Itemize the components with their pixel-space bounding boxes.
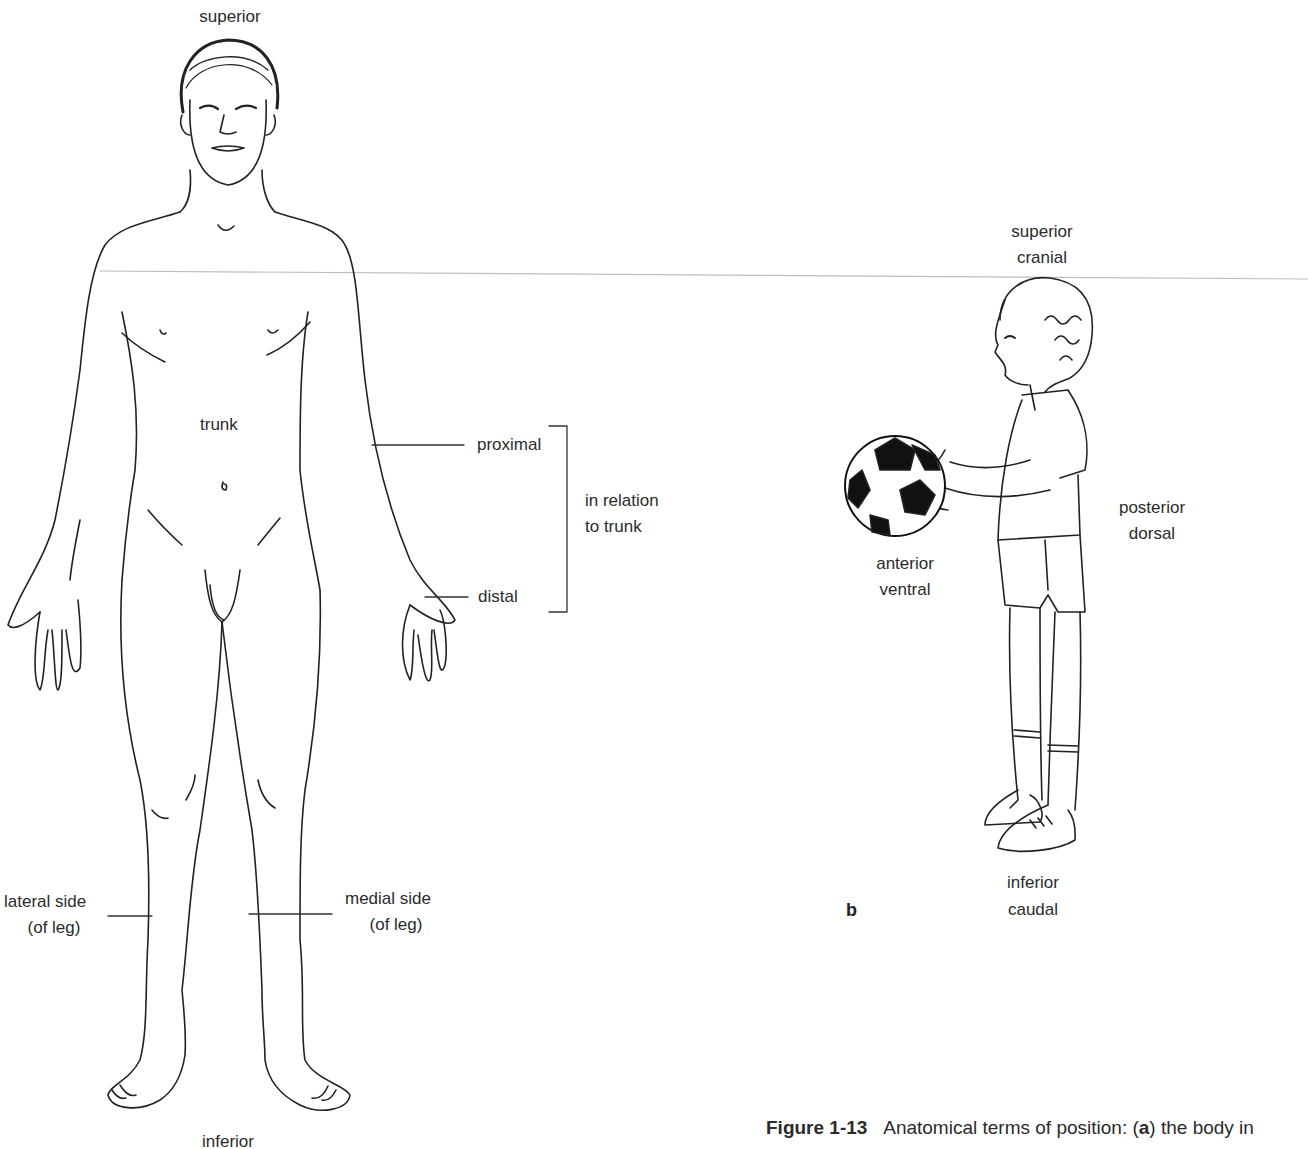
label-caudal: caudal [973,897,1093,923]
relation-bracket [549,426,567,612]
label-medial-line2: (of leg) [345,912,447,938]
soccer-ball-icon [845,436,945,536]
label-anterior: anterior [845,551,965,577]
caption-panel-a: a [1139,1117,1150,1138]
label-superior: superior [170,4,290,30]
label-relation-line2: to trunk [585,514,642,540]
figure-number: Figure 1-13 [766,1117,867,1138]
label-medial-line1: medial side [345,886,431,912]
panel-letter-b: b [846,900,857,921]
label-lateral-line2: (of leg) [4,915,104,941]
label-relation-line1: in relation [585,488,659,514]
caption-suffix: ) the body in [1149,1117,1254,1138]
label-distal: distal [478,584,518,610]
label-inferior: inferior [168,1129,288,1149]
figure-caption: Figure 1-13 Anatomical terms of position… [766,1117,1254,1139]
adult-figure [8,40,455,1110]
label-cranial: cranial [982,245,1102,271]
label-trunk: trunk [200,412,238,438]
anatomy-illustration [0,0,1308,1149]
label-superior-b: superior [982,219,1102,245]
label-lateral-line1: lateral side [4,889,86,915]
label-proximal: proximal [477,432,541,458]
label-dorsal: dorsal [1092,521,1212,547]
label-inferior-b: inferior [973,870,1093,896]
label-ventral: ventral [845,577,965,603]
label-posterior: posterior [1092,495,1212,521]
caption-prefix: Anatomical terms of position: ( [883,1117,1139,1138]
horizontal-plane-line [100,271,1308,279]
